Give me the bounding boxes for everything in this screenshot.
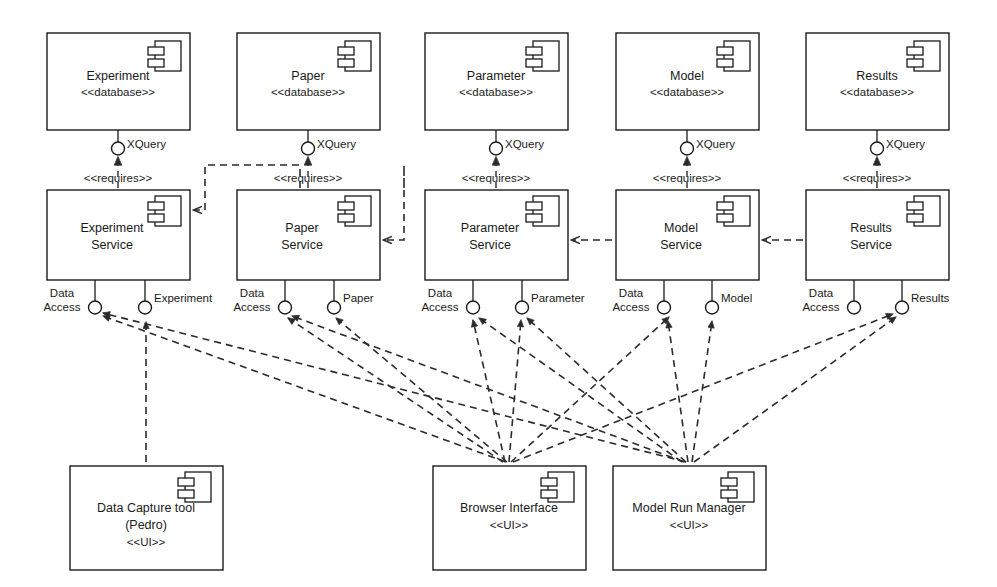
database-components-row: Experiment <<database>> Paper <<database… bbox=[47, 33, 949, 130]
requires-label: <<requires>> bbox=[843, 172, 912, 184]
interface-label-line1: Data bbox=[619, 287, 644, 299]
component-db-paper[interactable]: Paper <<database>> bbox=[237, 33, 380, 130]
component-name-line1: Model bbox=[664, 221, 698, 235]
xquery-interface-ball[interactable] bbox=[112, 142, 125, 155]
component-name-line2: Service bbox=[281, 238, 323, 252]
component-svc-results[interactable]: Results Service bbox=[806, 190, 949, 280]
xquery-label: XQuery bbox=[127, 138, 166, 150]
component-name-line2: Service bbox=[660, 238, 702, 252]
xquery-label: XQuery bbox=[886, 138, 925, 150]
dependency-browser-to-paper-data-access[interactable] bbox=[288, 318, 503, 462]
component-name-line2: Service bbox=[91, 238, 133, 252]
dependency-browser-to-model-data-access[interactable] bbox=[511, 317, 669, 462]
provided-interface-lollipops: Data Access Experiment Data Access Paper… bbox=[43, 280, 949, 314]
component-name-line2: Service bbox=[850, 238, 892, 252]
interface-label-line1: Data bbox=[428, 287, 453, 299]
dependency-mrm-to-experiment-data-access[interactable] bbox=[103, 313, 686, 462]
xquery-label: XQuery bbox=[696, 138, 735, 150]
dependency-browser-to-parameter-data-access[interactable] bbox=[473, 320, 505, 462]
service-components-row: Experiment Service Paper Service Paramet… bbox=[47, 190, 949, 280]
component-name: Parameter bbox=[467, 69, 525, 83]
component-name: Model bbox=[670, 69, 704, 83]
lollipop-parameter-parameter[interactable]: Parameter bbox=[516, 280, 585, 314]
lollipop-experiment-data-access[interactable]: Data Access bbox=[43, 280, 101, 314]
component-diagram-canvas: Experiment <<database>> Paper <<database… bbox=[0, 0, 997, 587]
interface-label: Parameter bbox=[531, 292, 585, 304]
lollipop-experiment-experiment[interactable]: Experiment bbox=[139, 280, 213, 314]
interface-label-line2: Access bbox=[233, 301, 270, 313]
requires-label: <<requires>> bbox=[653, 172, 722, 184]
interface-label: Experiment bbox=[154, 292, 213, 304]
xquery-interface-ball[interactable] bbox=[681, 142, 694, 155]
component-db-results[interactable]: Results <<database>> bbox=[806, 33, 949, 130]
component-name: Results bbox=[856, 69, 898, 83]
xquery-connector-results[interactable]: XQuery <<requires>> bbox=[843, 130, 925, 188]
component-ui-browser[interactable]: Browser Interface <<UI>> bbox=[433, 466, 586, 570]
interface-label: Model bbox=[721, 292, 752, 304]
component-name-line1: Data Capture tool bbox=[97, 501, 195, 515]
component-stereotype: <<UI>> bbox=[670, 519, 709, 531]
lollipop-results-results[interactable]: Results bbox=[896, 280, 950, 314]
component-stereotype: <<database>> bbox=[459, 86, 533, 98]
component-svc-parameter[interactable]: Parameter Service bbox=[425, 190, 568, 280]
component-stereotype: <<database>> bbox=[81, 86, 155, 98]
requires-label: <<requires>> bbox=[274, 172, 343, 184]
component-name-line1: Results bbox=[850, 221, 892, 235]
lollipop-paper-paper[interactable]: Paper bbox=[328, 280, 374, 314]
component-name-line1: Model Run Manager bbox=[632, 501, 745, 515]
lollipop-model-data-access[interactable]: Data Access bbox=[612, 280, 670, 314]
component-stereotype: <<database>> bbox=[840, 86, 914, 98]
interface-label-line1: Data bbox=[240, 287, 265, 299]
xquery-interface-ball[interactable] bbox=[490, 142, 503, 155]
component-stereotype: <<UI>> bbox=[490, 519, 529, 531]
ui-dependency-links bbox=[103, 313, 896, 462]
component-svc-model[interactable]: Model Service bbox=[616, 190, 759, 280]
component-name-line1: Paper bbox=[285, 221, 318, 235]
component-stereotype: <<database>> bbox=[271, 86, 345, 98]
component-stereotype: <<database>> bbox=[650, 86, 724, 98]
component-ui-pedro[interactable]: Data Capture tool (Pedro) <<UI>> bbox=[70, 466, 223, 570]
xquery-connector-model[interactable]: XQuery <<requires>> bbox=[653, 130, 735, 188]
dependency-mrm-to-model-data-access[interactable] bbox=[668, 321, 688, 462]
interface-label-line2: Access bbox=[612, 301, 649, 313]
component-ui-model-run-manager[interactable]: Model Run Manager <<UI>> bbox=[613, 466, 766, 570]
requires-label: <<requires>> bbox=[462, 172, 531, 184]
component-db-experiment[interactable]: Experiment <<database>> bbox=[47, 33, 190, 130]
xquery-assembly-connectors: XQuery <<requires>> XQuery <<requires>> … bbox=[84, 130, 925, 188]
lollipop-paper-data-access[interactable]: Data Access bbox=[233, 280, 291, 314]
xquery-interface-ball[interactable] bbox=[302, 142, 315, 155]
lollipop-model-model[interactable]: Model bbox=[706, 280, 753, 314]
component-db-parameter[interactable]: Parameter <<database>> bbox=[425, 33, 568, 130]
dependency-browser-to-paper-paper[interactable] bbox=[336, 318, 507, 462]
dependency-mrm-to-parameter-parameter[interactable] bbox=[527, 318, 686, 462]
component-name-line2: Service bbox=[469, 238, 511, 252]
lollipop-results-data-access[interactable]: Data Access bbox=[802, 280, 860, 314]
interface-label-line2: Access bbox=[43, 301, 80, 313]
ui-components-row: Data Capture tool (Pedro) <<UI>> Browser… bbox=[70, 466, 766, 570]
component-db-model[interactable]: Model <<database>> bbox=[616, 33, 759, 130]
component-svc-paper[interactable]: Paper Service bbox=[237, 190, 380, 280]
xquery-connector-parameter[interactable]: XQuery <<requires>> bbox=[462, 130, 544, 188]
dependency-mrm-to-results-results[interactable] bbox=[694, 317, 896, 462]
component-svc-experiment[interactable]: Experiment Service bbox=[47, 190, 190, 280]
interface-label-line2: Access bbox=[421, 301, 458, 313]
lollipop-parameter-data-access[interactable]: Data Access bbox=[421, 280, 479, 314]
component-stereotype: <<UI>> bbox=[127, 536, 166, 548]
component-name: Paper bbox=[291, 69, 324, 83]
dependency-browser-to-experiment-data-access[interactable] bbox=[103, 316, 506, 462]
xquery-connector-paper[interactable]: XQuery <<requires>> bbox=[274, 130, 356, 188]
interface-label-line1: Data bbox=[809, 287, 834, 299]
interface-label: Paper bbox=[343, 292, 374, 304]
component-name: Experiment bbox=[86, 69, 150, 83]
interface-label-line2: Access bbox=[802, 301, 839, 313]
xquery-connector-experiment[interactable]: XQuery <<requires>> bbox=[84, 130, 166, 188]
dependency-mrm-to-paper-data-access[interactable] bbox=[292, 316, 684, 462]
component-name-line1: Experiment bbox=[80, 221, 144, 235]
dependency-mrm-to-parameter-data-access[interactable] bbox=[479, 318, 682, 462]
xquery-interface-ball[interactable] bbox=[871, 142, 884, 155]
component-name-line2: (Pedro) bbox=[125, 518, 167, 532]
interface-label-line1: Data bbox=[50, 287, 75, 299]
xquery-label: XQuery bbox=[317, 138, 356, 150]
component-name-line1: Browser Interface bbox=[460, 501, 558, 515]
dependency-parameter-to-paper[interactable] bbox=[384, 165, 404, 240]
